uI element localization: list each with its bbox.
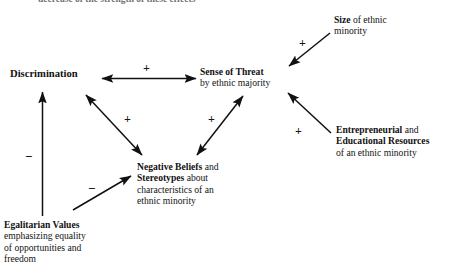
node-resources-line-0: Entrepreneurial and [336, 124, 429, 135]
node-size-line-1: minority [334, 25, 387, 36]
clipped-caption-text: decrease of the strength of these effect… [38, 0, 195, 4]
sign-egalitarian-discrimination: − [25, 150, 32, 163]
node-sense-of-threat-line-1: by ethnic majority [200, 77, 270, 88]
node-egalitarian-line-1: emphasizing equality [4, 230, 86, 241]
sign-discrimination-sense-of-threat: + [143, 62, 150, 74]
node-egalitarian-line-3: freedom [4, 253, 86, 264]
sign-resources-sense-of-threat: + [295, 125, 302, 137]
node-discrimination-line-0: Discrimination [10, 68, 78, 81]
node-negative-beliefs-line-1: Stereotypes about [137, 172, 219, 183]
sign-discrimination-negative-beliefs: + [124, 113, 131, 125]
node-negative-beliefs-line-3: ethnic minority [137, 195, 219, 206]
sign-negative-beliefs-sense-of-threat: + [208, 113, 215, 125]
node-discrimination: Discrimination [10, 68, 78, 81]
node-resources-line-2: of an ethnic minority [336, 147, 429, 158]
sign-egalitarian-negative-beliefs: − [88, 182, 95, 195]
figure-canvas: decrease of the strength of these effect… [0, 0, 453, 273]
node-size-of-ethnic-minority: Size of ethnic minority [334, 14, 387, 37]
node-size-line-0: Size of ethnic [334, 14, 387, 25]
node-negative-beliefs-line-0: Negative Beliefs and [137, 161, 219, 172]
node-egalitarian-line-0: Egalitarian Values [4, 219, 86, 230]
edge-size-sense-of-threat [289, 33, 330, 66]
node-negative-beliefs-line-2: characteristics of an [137, 184, 219, 195]
node-negative-beliefs-stereotypes: Negative Beliefs and Stereotypes about c… [137, 161, 219, 206]
sign-size-sense-of-threat: + [299, 37, 306, 49]
node-sense-of-threat-line-0: Sense of Threat [200, 66, 270, 77]
edge-egalitarian-negative-beliefs [73, 176, 131, 210]
node-entrepreneurial-educational-resources: Entrepreneurial and Educational Resource… [336, 124, 429, 158]
node-egalitarian-values: Egalitarian Values emphasizing equality … [4, 219, 86, 264]
node-egalitarian-line-2: of opportunities and [4, 242, 86, 253]
clipped-caption-above-figure: decrease of the strength of these effect… [0, 0, 453, 9]
node-resources-line-1: Educational Resources [336, 135, 429, 146]
edge-discrimination-negative-beliefs [86, 95, 142, 155]
edge-negative-beliefs-sense-of-threat [197, 96, 243, 155]
node-sense-of-threat: Sense of Threat by ethnic majority [200, 66, 270, 89]
